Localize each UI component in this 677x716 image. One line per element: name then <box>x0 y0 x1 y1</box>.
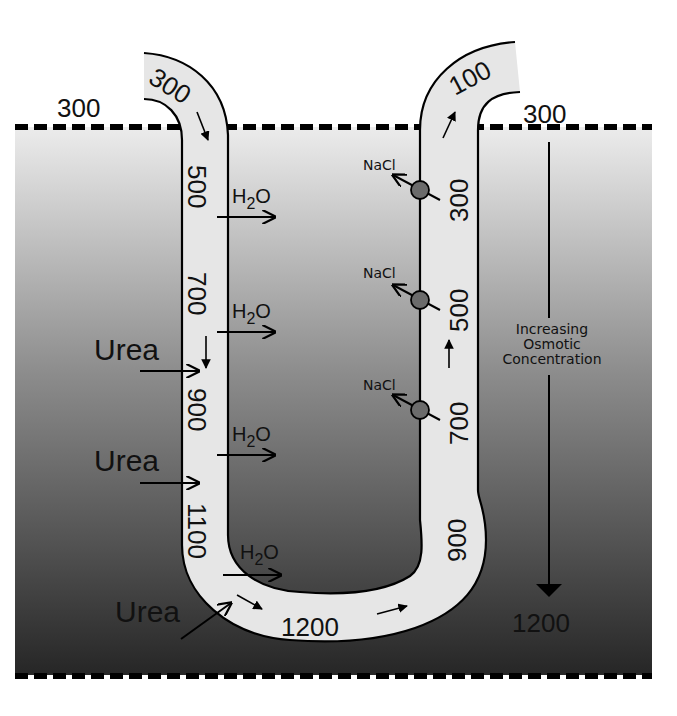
svg-text:Urea: Urea <box>94 444 159 477</box>
gradient-label-line1: Increasing <box>516 321 588 337</box>
pump-circle-icon <box>411 401 429 419</box>
gradient-label-line3: Concentration <box>502 351 601 367</box>
pump-circle-icon <box>411 181 429 199</box>
descending-1100-label: 1100 <box>182 503 212 559</box>
descending-900-label: 900 <box>182 388 212 431</box>
svg-text:NaCl: NaCl <box>363 157 396 173</box>
svg-text:NaCl: NaCl <box>363 377 396 393</box>
pump-circle-icon <box>411 291 429 309</box>
descending-500-label: 500 <box>182 165 212 208</box>
ascending-300-label: 300 <box>444 179 474 222</box>
svg-text:NaCl: NaCl <box>363 265 396 281</box>
svg-text:Urea: Urea <box>94 333 159 366</box>
interstitium-top-300-label: 300 <box>523 99 566 129</box>
loop-of-henle-diagram: 300 300 1200 Increasing Osmotic Concentr… <box>0 0 677 716</box>
ascending-900-label: 900 <box>442 519 472 562</box>
outside-left-300-label: 300 <box>57 93 100 123</box>
ascending-700-label: 700 <box>444 402 474 445</box>
gradient-label-line2: Osmotic <box>523 336 581 352</box>
loop-bottom-1200-label: 1200 <box>281 612 339 642</box>
svg-text:Urea: Urea <box>115 595 180 628</box>
ascending-500-label: 500 <box>444 289 474 332</box>
interstitium-bottom-1200-label: 1200 <box>512 608 570 638</box>
descending-700-label: 700 <box>182 272 212 315</box>
